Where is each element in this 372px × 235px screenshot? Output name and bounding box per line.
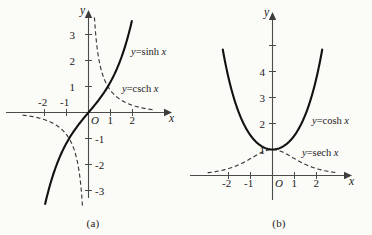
curve-csch-left-a (23, 115, 83, 208)
panel-b: y x O -2 -1 1 2 4 3 2 1 y=coshx y=sechx … (186, 0, 372, 235)
y-tick-label-a--2: -2 (95, 159, 104, 171)
curve-label-cosh: y=coshx (311, 115, 349, 126)
origin-label-b: O (275, 177, 283, 189)
curve-label-csch-arg: x (153, 83, 159, 94)
curve-label-csch: y=cschx (121, 83, 159, 94)
x-axis-label-a: x (168, 112, 175, 124)
y-tick-label-a-1: 1 (70, 81, 76, 93)
x-tick-label-a-2: 2 (130, 114, 136, 126)
x-axis-label-b: x (348, 175, 355, 187)
y-tick-label-b-2: 2 (260, 118, 266, 130)
y-axis-label-a: y (79, 4, 86, 17)
panel-caption-a: (a) (0, 217, 186, 229)
x-tick-label-b-1: 1 (292, 177, 298, 189)
curve-label-csch-name: csch (133, 83, 152, 94)
panel-caption-b: (b) (186, 217, 372, 229)
curve-label-sech: y=sechx (301, 147, 339, 158)
y-axis-arrow-a (85, 10, 92, 18)
x-tick-label-b--2: -2 (222, 177, 231, 189)
curve-label-sech-arg: x (333, 147, 339, 158)
x-tick-label-a-1: 1 (108, 114, 114, 126)
y-tick-label-b-4: 4 (260, 66, 266, 78)
x-tick-label-b--1: -1 (244, 177, 253, 189)
y-tick-label-b-3: 3 (260, 92, 266, 104)
y-axis-arrow-b (269, 12, 276, 20)
y-tick-label-a-3: 3 (70, 29, 76, 41)
y-tick-label-a--1: -1 (95, 133, 104, 145)
panel-a: y x O -2 -1 1 2 3 2 1 -1 -2 -3 y=sinhx y… (0, 0, 186, 235)
curve-csch-right-a (94, 17, 154, 110)
figure-root: y x O -2 -1 1 2 3 2 1 -1 -2 -3 y=sinhx y… (0, 0, 372, 235)
curve-label-sinh-arg: x (161, 46, 167, 57)
curve-label-sinh: y=sinhx (130, 46, 167, 57)
y-axis-label-b: y (263, 6, 270, 19)
curve-label-sinh-name: sinh (142, 46, 160, 57)
y-tick-label-b-1: 1 (260, 144, 266, 156)
x-tick-label-b-2: 2 (314, 177, 320, 189)
curve-label-sech-name: sech (313, 147, 332, 158)
x-tick-label-a--1: -1 (60, 96, 69, 108)
panel-a-plot: y x O -2 -1 1 2 3 2 1 -1 -2 -3 y=sinhx y… (0, 0, 186, 235)
panel-b-plot: y x O -2 -1 1 2 4 3 2 1 y=coshx y=sechx (186, 0, 372, 235)
y-tick-label-a--3: -3 (95, 185, 105, 197)
curve-label-cosh-arg: x (343, 115, 349, 126)
x-tick-label-a--2: -2 (38, 96, 47, 108)
origin-label-a: O (91, 114, 99, 126)
curve-label-cosh-name: cosh (323, 115, 343, 126)
y-tick-label-a-2: 2 (70, 55, 76, 67)
